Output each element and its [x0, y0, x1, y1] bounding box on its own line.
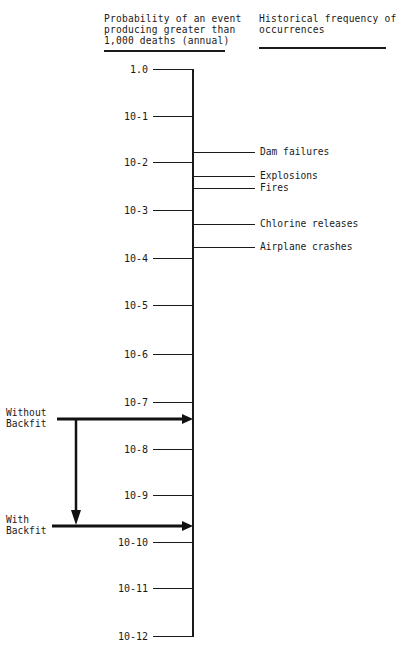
reduction-arrow — [71, 419, 81, 525]
with-backfit-arrow — [52, 521, 193, 531]
without-backfit-arrow — [57, 414, 193, 424]
backfit-arrows — [0, 0, 399, 649]
